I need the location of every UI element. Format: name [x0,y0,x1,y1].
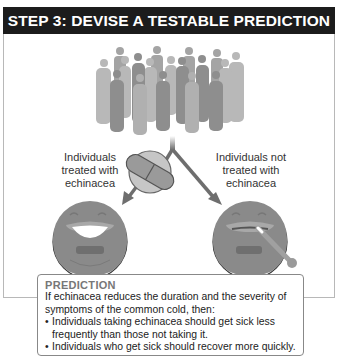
untreated-group-label: Individuals not treated with echinacea [208,151,294,190]
prediction-box: PREDICTION If echinacea reduces the dura… [37,274,304,356]
prediction-intro: If echinacea reduces the duration and th… [45,291,297,316]
smiling-mouth-icon [53,201,127,279]
prediction-title: PREDICTION [45,279,297,291]
prediction-bullet: Individuals who get sick should recover … [45,341,297,354]
mouth-with-thermometer-icon [213,201,297,279]
prediction-bullet: Individuals taking echinacea should get … [45,316,297,341]
prediction-list: Individuals taking echinacea should get … [45,316,297,354]
treated-group-label: Individuals treated with echinacea [54,151,126,190]
crowd-icon [96,46,244,135]
